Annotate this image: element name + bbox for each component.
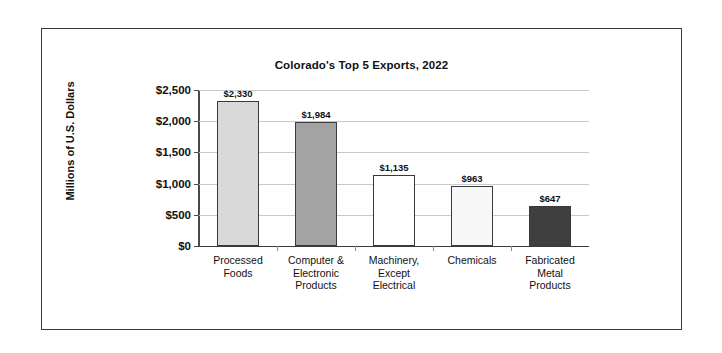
y-tick-label: $2,000	[156, 115, 191, 127]
category-separator-tick	[277, 246, 278, 251]
bar-slot: $963	[433, 90, 511, 246]
chart-title: Colorado's Top 5 Exports, 2022	[42, 59, 681, 71]
bar-value-label: $963	[461, 173, 482, 184]
y-tick-label: $1,500	[156, 146, 191, 158]
category-separator-tick	[433, 246, 434, 251]
bar-slot: $2,330	[199, 90, 277, 246]
bar-value-label: $1,984	[301, 109, 330, 120]
bar	[217, 101, 259, 246]
bar	[295, 122, 337, 246]
y-tick-label: $2,500	[156, 84, 191, 96]
bar-value-label: $1,135	[379, 162, 408, 173]
bar	[373, 175, 415, 246]
plot-area: $0$500$1,000$1,500$2,000$2,500 $2,330$1,…	[199, 90, 589, 246]
y-tick-label: $0	[178, 240, 191, 252]
bar	[529, 206, 571, 246]
y-axis-title: Millions of U.S. Dollars	[64, 61, 76, 221]
bar-slot: $1,135	[355, 90, 433, 246]
y-tick-label: $500	[165, 209, 191, 221]
y-tick-mark	[194, 246, 199, 247]
x-category-label: Fabricated Metal Products	[503, 254, 597, 292]
bar-slot: $1,984	[277, 90, 355, 246]
y-tick-label: $1,000	[156, 178, 191, 190]
category-separator-tick	[355, 246, 356, 251]
bar	[451, 186, 493, 246]
bar-value-label: $647	[539, 193, 560, 204]
bar-value-label: $2,330	[223, 88, 252, 99]
category-separator-tick	[511, 246, 512, 251]
figure-frame: Colorado's Top 5 Exports, 2022 Millions …	[41, 28, 682, 330]
bar-slot: $647	[511, 90, 589, 246]
